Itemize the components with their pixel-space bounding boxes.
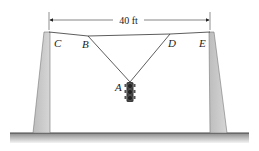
cable-CB	[49, 32, 88, 36]
cable-DE	[170, 32, 210, 34]
cable-DA	[130, 34, 170, 82]
label-point-B: B	[82, 38, 89, 50]
label-point-E: E	[198, 37, 206, 49]
label-point-C: C	[54, 37, 62, 49]
ground	[10, 133, 249, 143]
traffic-light-cable-diagram: 40 ft C B D E A	[0, 0, 259, 151]
cable-BA	[88, 36, 130, 82]
right-pole	[209, 32, 227, 133]
label-point-D: D	[167, 37, 176, 49]
dimension-label: 40 ft	[119, 15, 138, 26]
left-pole	[33, 32, 50, 133]
label-point-A: A	[114, 81, 122, 93]
cable-BD	[88, 34, 170, 36]
traffic-light-icon	[125, 82, 136, 102]
